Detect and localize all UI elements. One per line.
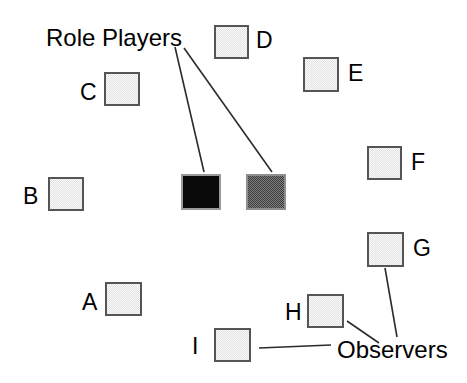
seat-label-c: C: [80, 81, 97, 104]
seat-label-i: I: [192, 335, 198, 358]
seat-box-rp1[interactable]: [181, 174, 221, 210]
seat-box-h[interactable]: [307, 294, 344, 328]
seat-label-a: A: [82, 291, 97, 314]
seat-box-f[interactable]: [367, 146, 402, 180]
leader-line-observers-to-g: [385, 268, 397, 337]
seat-box-g[interactable]: [367, 232, 404, 267]
leader-line-observers-to-i: [259, 345, 331, 348]
seat-label-e: E: [348, 62, 363, 85]
diagram-canvas: ABCDEFGHI Role PlayersObservers: [0, 0, 467, 383]
seat-box-a[interactable]: [105, 282, 142, 316]
seat-label-g: G: [413, 237, 431, 260]
seat-box-b[interactable]: [48, 177, 84, 211]
seat-box-i[interactable]: [214, 328, 251, 362]
group-label-observers: Observers: [337, 337, 448, 363]
seat-label-d: D: [256, 29, 273, 52]
seat-box-c[interactable]: [104, 72, 140, 106]
seat-box-rp2[interactable]: [246, 174, 286, 210]
leader-line-role-players-to-rp2: [184, 48, 272, 172]
leader-line-role-players-to-rp1: [175, 47, 204, 172]
seat-label-f: F: [411, 151, 425, 174]
group-label-role-players: Role Players: [46, 25, 182, 51]
seat-label-h: H: [285, 301, 302, 324]
seat-label-b: B: [23, 185, 38, 208]
seat-box-e[interactable]: [303, 57, 339, 92]
seat-box-d[interactable]: [214, 25, 249, 59]
